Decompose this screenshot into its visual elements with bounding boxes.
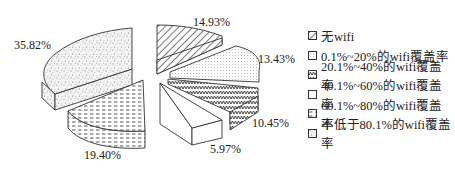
label-zigzag: 10.45%: [252, 116, 289, 131]
label-dots: 13.43%: [258, 52, 295, 67]
legend-item: 不低于80.1%的wifi覆盖率: [308, 124, 455, 144]
legend: 无wifi 0.1%~20%的wifi覆盖率 20.1%~40%的wifi覆盖率…: [308, 26, 455, 143]
legend-swatch-blank: [308, 90, 317, 99]
pie-chart: [0, 0, 300, 173]
label-dashed: 19.40%: [84, 148, 121, 163]
label-diagonal: 14.93%: [193, 15, 230, 30]
legend-swatch-dots: [308, 51, 317, 60]
legend-label: 不低于80.1%的wifi覆盖率: [321, 114, 455, 152]
legend-label: 无wifi: [321, 26, 354, 45]
legend-item: 无wifi: [308, 26, 455, 46]
legend-swatch-diagonal: [308, 31, 317, 40]
legend-swatch-zigzag: [308, 70, 317, 79]
label-speckle: 35.82%: [14, 38, 51, 53]
legend-swatch-speckle: [308, 129, 317, 138]
legend-swatch-dashed: [308, 109, 317, 118]
label-blank: 5.97%: [210, 142, 241, 157]
